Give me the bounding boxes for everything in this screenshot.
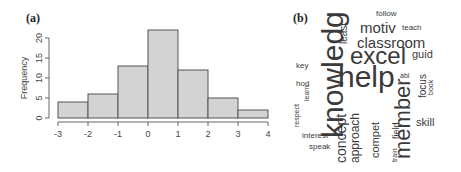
- word-compet: compet: [370, 122, 381, 158]
- x-tick-label: 3: [235, 129, 240, 139]
- y-tick-label: 5: [34, 95, 44, 100]
- word-guid: guid: [412, 49, 433, 60]
- y-tick-label: 10: [34, 73, 44, 83]
- word-train: train: [391, 148, 398, 162]
- histogram-bar: [118, 66, 148, 118]
- x-tick-label: 4: [265, 129, 270, 139]
- word-speak: speak: [309, 143, 330, 151]
- histogram-bar: [178, 70, 208, 118]
- x-tick-label: 1: [175, 129, 180, 139]
- word-respect: respect: [293, 104, 300, 127]
- word-abl: abl: [400, 72, 409, 79]
- histogram-bar: [148, 30, 178, 118]
- word-interest: interest: [302, 132, 328, 140]
- word-member: member: [392, 78, 414, 159]
- word-book: book: [427, 80, 434, 95]
- histogram-bars: [58, 30, 268, 118]
- y-axis-label: Frequency: [19, 56, 29, 99]
- word-approach: approach: [349, 113, 361, 163]
- word-learn: learn: [303, 85, 310, 101]
- x-tick-label: 2: [205, 129, 210, 139]
- histogram-bar: [88, 94, 118, 118]
- histogram-bar: [58, 102, 88, 118]
- word-motiv: motiv: [360, 20, 396, 35]
- word-skill: skill: [416, 117, 434, 128]
- histogram-bar: [208, 98, 238, 118]
- word-least: least: [339, 23, 349, 44]
- x-tick-label: -3: [54, 129, 62, 139]
- x-tick-label: -2: [84, 129, 92, 139]
- y-tick-label: 15: [34, 53, 44, 63]
- x-tick-label: -1: [114, 129, 122, 139]
- word-concept: concept: [334, 114, 348, 163]
- histogram-bar: [238, 110, 268, 118]
- panel-b-label: (b): [293, 11, 308, 26]
- x-tick-label: 0: [145, 129, 150, 139]
- word-teach: teach: [402, 24, 422, 32]
- word-field: field: [392, 122, 401, 139]
- y-tick-label: 0: [34, 115, 44, 120]
- y-tick-label: 20: [34, 33, 44, 43]
- word-follow: follow: [376, 10, 396, 18]
- word-key: key: [296, 62, 308, 70]
